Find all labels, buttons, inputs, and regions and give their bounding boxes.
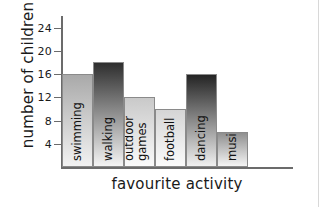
- x-axis-line: [61, 167, 293, 169]
- bar-label-group: dancing: [187, 75, 216, 166]
- y-tick-label: 4: [45, 137, 52, 150]
- plot-area: 4812162024 swimmingwalkingoutdoorgamesfo…: [61, 16, 293, 169]
- bar-label-group: outdoorgames: [125, 98, 154, 166]
- y-tick-label: 20: [37, 44, 52, 57]
- bar-dancing[interactable]: dancing: [186, 74, 217, 167]
- bar-label: walking: [101, 117, 115, 161]
- y-axis-title: number of children: [16, 0, 40, 155]
- bar-label-group: music: [218, 133, 247, 166]
- y-tick-mark: [54, 74, 62, 75]
- bar-label: games: [135, 122, 149, 161]
- bar-music[interactable]: music: [217, 132, 248, 167]
- y-tick-mark: [54, 144, 62, 145]
- bar-label: dancing: [194, 115, 208, 161]
- bar-walking[interactable]: walking: [93, 62, 124, 167]
- y-tick-mark: [54, 121, 62, 122]
- bar-outdoor-games[interactable]: outdoorgames: [124, 97, 155, 167]
- y-tick-mark: [54, 51, 62, 52]
- bar-label: music: [225, 132, 239, 161]
- bar-label: swimming: [70, 102, 84, 161]
- bar-label: football: [163, 118, 177, 161]
- y-tick-label: 24: [37, 21, 52, 34]
- bar-swimming[interactable]: swimming: [62, 74, 93, 167]
- y-tick-label: 8: [45, 114, 52, 127]
- bar-football[interactable]: football: [155, 109, 186, 167]
- bar-label-group: swimming: [63, 75, 92, 166]
- y-tick-label: 12: [37, 91, 52, 104]
- bar-label-group: football: [156, 110, 185, 166]
- y-tick-label: 16: [37, 68, 52, 81]
- bar-label-group: walking: [94, 63, 123, 166]
- y-tick-mark: [54, 97, 62, 98]
- bar-chart-figure: number of children 4812162024 swimmingwa…: [0, 0, 319, 207]
- y-tick-mark: [54, 28, 62, 29]
- x-axis-title: favourite activity: [61, 175, 293, 193]
